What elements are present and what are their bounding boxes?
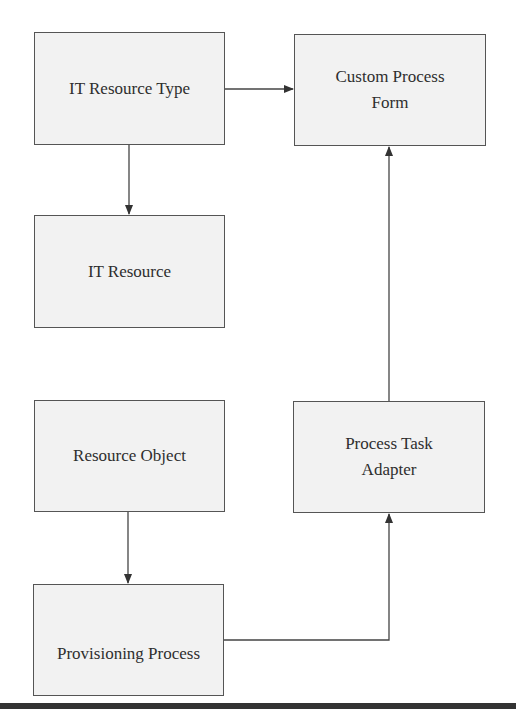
node-provisioning-process: Provisioning Process	[33, 584, 224, 696]
bottom-rule-divider	[0, 703, 516, 709]
node-label: Process Task Adapter	[345, 431, 433, 483]
node-process-task-adapter: Process Task Adapter	[293, 401, 485, 513]
node-it-resource-type: IT Resource Type	[34, 32, 225, 145]
node-label: Resource Object	[73, 443, 186, 469]
node-it-resource: IT Resource	[34, 215, 225, 328]
node-label: Provisioning Process	[57, 641, 200, 667]
node-label: Custom Process Form	[335, 64, 444, 116]
node-label: IT Resource	[88, 259, 171, 285]
edge-provisioning-process-to-process-task-adapter	[224, 514, 389, 640]
node-resource-object: Resource Object	[34, 400, 225, 512]
node-custom-process-form: Custom Process Form	[294, 34, 486, 146]
node-label: IT Resource Type	[69, 76, 190, 102]
